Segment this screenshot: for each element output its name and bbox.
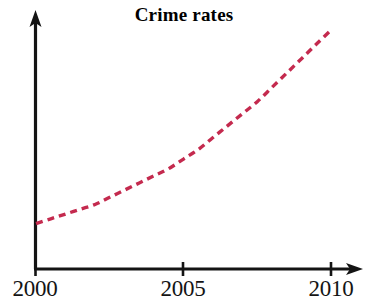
x-tick-label-2005: 2005 [161,275,206,302]
chart-plot-area [0,0,368,306]
crime-rates-chart: Crime rates 2000 2005 2010 [0,0,368,306]
x-tick-label-2010: 2010 [309,275,354,302]
series-line-crime-rates [36,30,331,224]
x-tick-label-2000: 2000 [13,275,58,302]
